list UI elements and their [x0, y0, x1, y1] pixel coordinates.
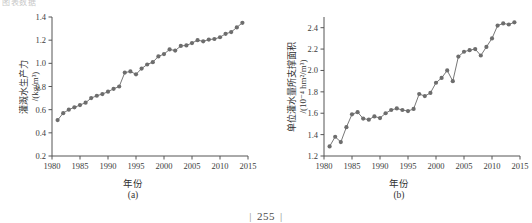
data-point — [117, 84, 121, 88]
data-point — [350, 112, 354, 116]
data-point — [145, 62, 149, 66]
data-point — [67, 108, 71, 112]
y-tick-label: 2.4 — [307, 23, 318, 33]
x-tick-label: 2015 — [512, 161, 529, 171]
data-point — [423, 94, 427, 98]
y-tick-label: 1.4 — [35, 12, 46, 22]
data-point — [395, 106, 399, 110]
data-point — [456, 54, 460, 58]
page-number-block: |255| — [0, 210, 532, 222]
figure-caption-b: (b) — [266, 190, 532, 200]
x-tick-label: 2010 — [484, 161, 501, 171]
data-point — [89, 96, 93, 100]
data-point — [367, 118, 371, 122]
data-point — [512, 20, 516, 24]
data-point — [451, 79, 455, 83]
data-point — [224, 32, 228, 36]
data-point — [72, 105, 76, 109]
y-tick-label: 1.6 — [307, 108, 318, 118]
svg-text:/(kg/m³): /(kg/m³) — [30, 72, 40, 102]
page-number: 255 — [257, 210, 275, 222]
data-point — [134, 72, 138, 76]
figure-caption-a: (a) — [0, 190, 266, 200]
data-point — [344, 125, 348, 129]
y-axis-title: 单位灌水量所支撑面积/(10⁻⁴ hm²/m³) — [286, 42, 308, 132]
data-point — [434, 81, 438, 85]
data-point — [56, 118, 60, 122]
y-tick-label: 0.4 — [35, 128, 46, 138]
data-point — [445, 68, 449, 72]
data-point — [356, 110, 360, 114]
data-point — [333, 135, 337, 139]
data-point — [106, 90, 110, 94]
data-point — [123, 71, 127, 75]
data-point — [156, 54, 160, 58]
plot-area-b: 1.21.41.61.82.02.22.41980198519901995200… — [266, 0, 532, 176]
data-point — [184, 43, 188, 47]
y-tick-label: 1.4 — [307, 130, 318, 140]
svg-text:/(10⁻⁴ hm²/m³): /(10⁻⁴ hm²/m³) — [298, 59, 308, 113]
data-point — [496, 23, 500, 27]
svg-text:单位灌水量所支撑面积: 单位灌水量所支撑面积 — [286, 42, 297, 132]
data-point — [218, 35, 222, 39]
y-tick-label: 1.8 — [307, 87, 318, 97]
data-point — [168, 47, 172, 51]
data-point — [128, 69, 132, 73]
figure-b: 1.21.41.61.82.02.22.41980198519901995200… — [266, 0, 532, 200]
x-tick-label: 2015 — [240, 161, 257, 171]
data-point — [384, 111, 388, 115]
data-point — [484, 45, 488, 49]
data-point — [473, 47, 477, 51]
data-point — [212, 37, 216, 41]
data-point — [479, 53, 483, 57]
data-point — [490, 36, 494, 40]
data-point — [84, 101, 88, 105]
svg-text:灌溉水生产力: 灌溉水生产力 — [18, 60, 29, 114]
figure-a: 0.20.40.60.81.01.21.41980198519901995200… — [0, 0, 266, 200]
x-tick-label: 1980 — [316, 161, 333, 171]
y-tick-label: 1.2 — [307, 151, 318, 161]
data-point — [468, 48, 472, 52]
x-tick-label: 1995 — [400, 161, 417, 171]
x-tick-label: 1985 — [344, 161, 361, 171]
data-point — [328, 144, 332, 148]
data-point — [389, 108, 393, 112]
data-point — [339, 140, 343, 144]
data-point — [400, 108, 404, 112]
data-point — [235, 25, 239, 29]
data-point — [440, 76, 444, 80]
data-point — [507, 22, 511, 26]
x-tick-label: 1990 — [372, 161, 389, 171]
y-tick-label: 0.2 — [35, 151, 46, 161]
page-rule-left: | — [244, 210, 257, 222]
data-point — [229, 30, 233, 34]
data-point — [406, 109, 410, 113]
plot-area-a: 0.20.40.60.81.01.21.41980198519901995200… — [0, 0, 266, 176]
x-tick-label: 1985 — [72, 161, 89, 171]
x-tick-label: 2005 — [184, 161, 201, 171]
data-point — [240, 21, 244, 25]
data-point — [112, 87, 116, 91]
data-point — [140, 66, 144, 70]
data-point — [372, 114, 376, 118]
x-tick-label: 1995 — [128, 161, 145, 171]
data-point — [151, 60, 155, 64]
data-point — [162, 52, 166, 56]
y-tick-label: 0.6 — [35, 105, 46, 115]
data-point — [462, 50, 466, 54]
y-tick-label: 2.2 — [307, 44, 318, 54]
data-point — [501, 21, 505, 25]
x-tick-label: 2000 — [428, 161, 445, 171]
data-point — [201, 39, 205, 43]
data-point — [207, 37, 211, 41]
data-point — [412, 107, 416, 111]
data-point — [428, 91, 432, 95]
x-tick-label: 2010 — [212, 161, 229, 171]
data-point — [196, 38, 200, 42]
data-point — [100, 92, 104, 96]
data-point — [179, 44, 183, 48]
x-axis-title-b: 年份 — [266, 176, 532, 190]
y-tick-label: 1.2 — [35, 35, 46, 45]
data-point — [61, 111, 65, 115]
data-point — [378, 116, 382, 120]
